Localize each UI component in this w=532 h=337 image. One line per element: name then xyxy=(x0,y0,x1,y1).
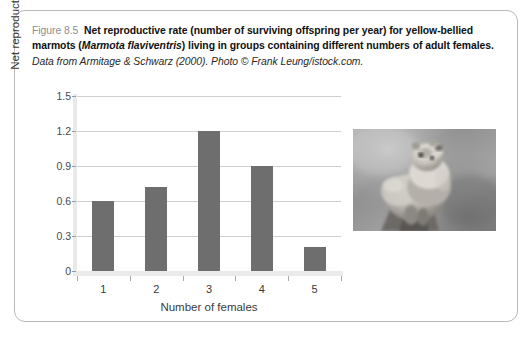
y-axis-tick-label: 0.6 xyxy=(56,195,71,207)
y-axis-tick-mark xyxy=(72,236,76,237)
bar xyxy=(92,201,114,271)
marmot-photo xyxy=(353,129,496,231)
y-axis-title: Net reproductive rate xyxy=(9,0,21,106)
x-axis-tick-label: 2 xyxy=(144,283,168,295)
bar xyxy=(198,131,220,271)
y-axis-tick-mark xyxy=(72,271,76,272)
y-axis-tick-mark xyxy=(72,131,76,132)
y-axis-tick-label: 1.2 xyxy=(56,125,71,137)
x-axis-tick-mark xyxy=(235,276,236,281)
y-axis-tick-label: 0.3 xyxy=(56,230,71,242)
x-axis-tick-label: 5 xyxy=(303,283,327,295)
x-axis-tick-label: 1 xyxy=(91,283,115,295)
x-axis-tick-mark xyxy=(77,276,78,281)
bar xyxy=(251,166,273,271)
y-axis-tick-label: 0 xyxy=(65,265,71,277)
y-axis-tick-label: 1.5 xyxy=(56,90,71,102)
x-axis-tick-label: 4 xyxy=(250,283,274,295)
bar xyxy=(145,187,167,271)
x-axis-tick-mark xyxy=(288,276,289,281)
y-axis-tick-label: 0.9 xyxy=(56,160,71,172)
x-axis-tick-label: 3 xyxy=(197,283,221,295)
x-axis-tick-mark xyxy=(341,276,342,281)
y-axis-tick-mark xyxy=(72,201,76,202)
x-axis-title: Number of females xyxy=(77,301,341,313)
x-axis-tick-mark xyxy=(130,276,131,281)
gridline xyxy=(77,96,341,97)
plot-area xyxy=(77,96,341,271)
figure-panel: Figure 8.5 Net reproductive rate (number… xyxy=(14,10,518,322)
marmot-photo-image xyxy=(353,129,496,231)
y-axis-tick-mark xyxy=(72,166,76,167)
x-axis-line xyxy=(75,271,343,276)
x-axis-tick-mark xyxy=(183,276,184,281)
bar xyxy=(304,247,326,272)
y-axis-tick-mark xyxy=(72,96,76,97)
